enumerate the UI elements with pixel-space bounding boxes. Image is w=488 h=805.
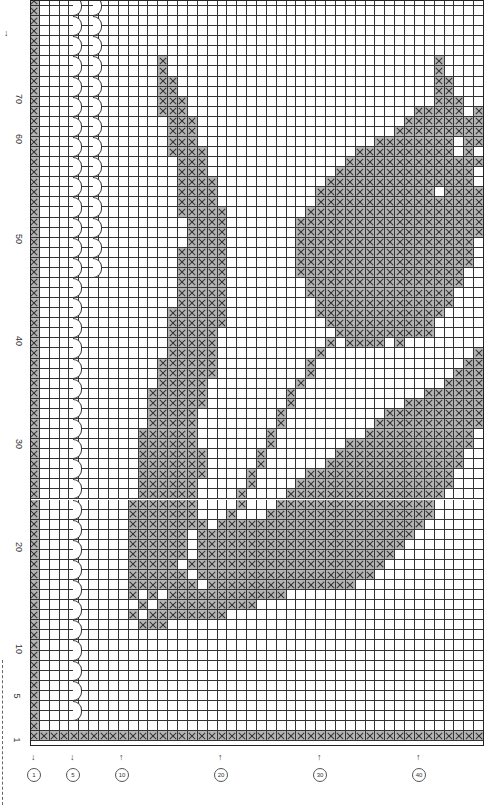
open-cell (89, 630, 99, 640)
filled-cell (405, 248, 415, 258)
filled-cell (316, 248, 326, 258)
filled-cell (435, 228, 445, 238)
open-cell (306, 97, 316, 107)
filled-cell (208, 359, 218, 369)
open-cell (474, 6, 484, 16)
open-cell (129, 56, 139, 66)
filled-cell (385, 540, 395, 550)
open-cell (227, 187, 237, 197)
filled-cell (346, 218, 356, 228)
open-cell (148, 348, 158, 358)
filled-cell (366, 147, 376, 157)
open-cell (129, 459, 139, 469)
open-cell (474, 620, 484, 630)
open-cell (464, 328, 474, 338)
open-cell (119, 580, 129, 590)
filled-cell (277, 409, 287, 419)
open-cell (454, 348, 464, 358)
open-cell (129, 620, 139, 630)
open-cell (109, 46, 119, 56)
open-cell (415, 570, 425, 580)
filled-cell (405, 449, 415, 459)
filled-cell (198, 459, 208, 469)
open-cell (89, 721, 99, 731)
open-cell (336, 87, 346, 97)
open-cell (247, 197, 257, 207)
open-cell (474, 26, 484, 36)
filled-cell (375, 419, 385, 429)
filled-cell (415, 409, 425, 419)
open-cell (257, 107, 267, 117)
open-cell (257, 620, 267, 630)
open-cell (50, 137, 60, 147)
open-cell (277, 651, 287, 661)
open-cell (454, 640, 464, 650)
filled-cell (366, 469, 376, 479)
open-cell (227, 630, 237, 640)
filled-cell (336, 510, 346, 520)
open-cell (415, 600, 425, 610)
filled-cell (454, 459, 464, 469)
open-cell (139, 318, 149, 328)
filled-cell (30, 167, 40, 177)
open-cell (50, 187, 60, 197)
filled-cell (247, 540, 257, 550)
open-cell (188, 620, 198, 630)
open-cell (99, 489, 109, 499)
open-cell (60, 77, 70, 87)
open-cell (306, 610, 316, 620)
filled-cell (168, 389, 178, 399)
open-cell (168, 711, 178, 721)
open-cell (158, 6, 168, 16)
filled-cell (218, 298, 228, 308)
filled-cell (366, 500, 376, 510)
open-cell (208, 640, 218, 650)
open-cell (247, 77, 257, 87)
open-cell (277, 369, 287, 379)
filled-cell (30, 620, 40, 630)
open-cell (267, 157, 277, 167)
open-cell (474, 671, 484, 681)
open-cell (316, 600, 326, 610)
open-cell (50, 620, 60, 630)
open-cell (178, 620, 188, 630)
filled-cell (296, 248, 306, 258)
open-cell (119, 610, 129, 620)
open-cell (218, 419, 228, 429)
open-cell (287, 197, 297, 207)
open-cell (267, 117, 277, 127)
filled-cell (257, 520, 267, 530)
open-cell (208, 87, 218, 97)
open-cell (385, 389, 395, 399)
open-cell (40, 318, 50, 328)
open-cell (296, 157, 306, 167)
filled-cell (267, 530, 277, 540)
open-cell (188, 6, 198, 16)
open-cell (336, 77, 346, 87)
open-cell (227, 288, 237, 298)
open-cell (356, 97, 366, 107)
open-cell (425, 600, 435, 610)
filled-cell (30, 77, 40, 87)
filled-cell (366, 459, 376, 469)
filled-cell (287, 489, 297, 499)
filled-cell (385, 328, 395, 338)
filled-cell (277, 520, 287, 530)
open-cell (139, 721, 149, 731)
open-cell (257, 338, 267, 348)
open-cell (336, 117, 346, 127)
filled-cell (425, 459, 435, 469)
open-cell (227, 46, 237, 56)
filled-cell (405, 510, 415, 520)
filled-cell (326, 570, 336, 580)
open-cell (119, 157, 129, 167)
open-cell (247, 681, 257, 691)
open-cell (405, 348, 415, 358)
open-cell (257, 469, 267, 479)
open-cell (395, 107, 405, 117)
open-cell (119, 359, 129, 369)
open-cell (158, 258, 168, 268)
filled-cell (356, 459, 366, 469)
open-cell (306, 600, 316, 610)
open-cell (435, 701, 445, 711)
